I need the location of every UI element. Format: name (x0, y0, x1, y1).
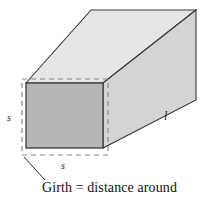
girth-caption: Girth = distance around (42, 181, 177, 195)
girth-figure: s s l Girth = distance around (0, 0, 206, 201)
caption-leader-line (24, 157, 45, 180)
length-label: l (164, 110, 167, 122)
side-length-label-bottom: s (61, 161, 65, 171)
box-diagram-svg (0, 0, 206, 201)
box-front-face (26, 83, 103, 148)
side-length-label-left: s (7, 113, 11, 123)
